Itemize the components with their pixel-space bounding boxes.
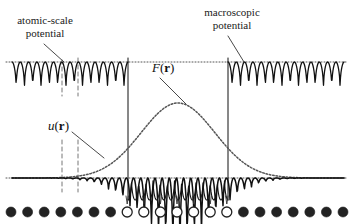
atom-filled — [39, 207, 49, 217]
atom-filled — [72, 207, 82, 217]
atom-filled — [272, 207, 282, 217]
atom-open — [205, 207, 215, 217]
atom-filled — [305, 207, 315, 217]
local-function-label: u(r) — [48, 118, 69, 134]
envelope-symbol-letter: F — [152, 60, 160, 75]
atom-open — [222, 207, 232, 217]
macroscopic-potential-line1: macroscopic — [186, 6, 278, 19]
upper-right-atomic-potential-curve — [228, 62, 344, 85]
atom-filled — [338, 207, 348, 217]
atom-filled — [321, 207, 331, 217]
envelope-function-label: F(r) — [152, 60, 174, 76]
macroscopic-potential-label: macroscopic potential — [186, 6, 278, 31]
atom-filled — [89, 207, 99, 217]
atomic-scale-potential-line2: potential — [6, 27, 84, 40]
physics-figure: atomic-scale potential macroscopic poten… — [0, 0, 354, 224]
atomic-scale-potential-line1: atomic-scale — [6, 14, 84, 27]
atomic-scale-potential-label: atomic-scale potential — [6, 14, 84, 39]
atom-filled — [56, 207, 66, 217]
atom-filled — [238, 207, 248, 217]
atom-open — [172, 207, 182, 217]
atom-filled — [106, 207, 116, 217]
local-symbol-paren-close: ) — [65, 118, 69, 133]
envelope-leader — [160, 78, 186, 104]
atom-filled — [23, 207, 33, 217]
atom-filled — [6, 207, 16, 217]
defect-atom-tick — [176, 196, 178, 204]
atom-filled — [255, 207, 265, 217]
atom-open — [155, 207, 165, 217]
envelope-symbol-paren-close: ) — [170, 60, 174, 75]
atom-open — [122, 207, 132, 217]
atom-open — [189, 207, 199, 217]
atomic-scale-leader — [44, 44, 64, 62]
defect-atom-tick — [126, 196, 128, 204]
macroscopic-leader — [228, 36, 244, 62]
atom-open — [139, 207, 149, 217]
macroscopic-potential-line2: potential — [186, 19, 278, 32]
local-leader — [72, 132, 104, 158]
upper-left-atomic-potential-curve — [12, 62, 128, 85]
atom-filled — [288, 207, 298, 217]
